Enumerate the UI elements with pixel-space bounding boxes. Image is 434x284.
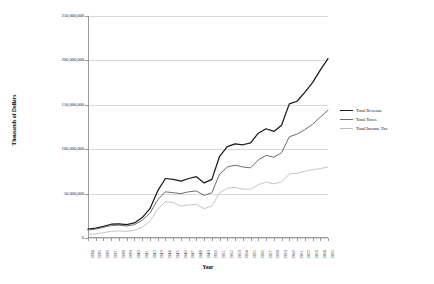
x-axis-tick-mark [196, 238, 197, 241]
x-axis-tick-label: 1939 [128, 250, 133, 259]
x-axis-tick-label: 1942 [152, 250, 157, 259]
x-axis-tick-label: 1950 [213, 250, 218, 259]
x-axis-tick-label: 1948 [198, 250, 203, 259]
x-axis-tick-mark [111, 238, 112, 241]
legend-item: Total Income Tax [340, 124, 432, 133]
gridline [88, 238, 328, 239]
x-axis-tick-mark [142, 238, 143, 241]
x-axis-tick-mark [320, 238, 321, 241]
x-axis-tick-mark [266, 238, 267, 241]
legend-swatch [340, 119, 353, 120]
x-axis-tick-mark [165, 238, 166, 241]
x-axis-tick-mark [134, 238, 135, 241]
x-axis-tick-label: 1952 [229, 250, 234, 259]
x-axis-tick-label: 1937 [113, 250, 118, 259]
x-axis-tick-mark [204, 238, 205, 241]
x-axis-tick-mark [181, 238, 182, 241]
x-axis-tick-label: 1963 [314, 250, 319, 259]
x-axis-tick-mark [258, 238, 259, 241]
x-axis-tick-label: 1955 [252, 250, 257, 259]
x-axis-tick-mark [251, 238, 252, 241]
x-axis-tick-label: 1946 [183, 250, 188, 259]
chart-figure: Thousands of Dollars 050,000,000100,000,… [0, 0, 434, 284]
x-axis-tick-label: 1954 [244, 250, 249, 259]
chart-legend: Total RevenueTotal TaxesTotal Income Tax [340, 106, 432, 133]
y-axis-tick-label: 50,000,000 [26, 191, 84, 196]
x-axis-tick-label: 1956 [260, 250, 265, 259]
y-axis-tick-mark [85, 60, 88, 61]
y-axis-tick-label: 250,000,000 [26, 13, 84, 18]
legend-label: Total Revenue [356, 108, 382, 113]
y-axis-tick-mark [85, 149, 88, 150]
x-axis-tick-mark [328, 238, 329, 241]
x-axis-tick-mark [173, 238, 174, 241]
x-axis-tick-label: 1962 [306, 250, 311, 259]
x-axis-tick-mark [127, 238, 128, 241]
y-axis-tick-mark [85, 194, 88, 195]
x-axis-tick-label: 1957 [268, 250, 273, 259]
x-axis-tick-mark [227, 238, 228, 241]
x-axis-tick-label: 1945 [175, 250, 180, 259]
x-axis-tick-mark [235, 238, 236, 241]
x-axis-tick-label: 1951 [221, 250, 226, 259]
series-lines [88, 16, 328, 238]
series-line [88, 110, 328, 230]
x-axis-tick-label: 1944 [167, 250, 172, 259]
x-axis-tick-mark [88, 238, 89, 241]
legend-swatch [340, 110, 353, 111]
x-axis-tick-label: 1941 [144, 250, 149, 259]
x-axis-tick-label: 1947 [190, 250, 195, 259]
x-axis-tick-mark [305, 238, 306, 241]
x-axis-tick-label: 1935 [97, 250, 102, 259]
x-axis-tick-mark [274, 238, 275, 241]
legend-label: Total Income Tax [356, 126, 387, 131]
x-axis-tick-label: 1936 [105, 250, 110, 259]
x-axis-tick-mark [220, 238, 221, 241]
y-axis-tick-mark [85, 105, 88, 106]
x-axis-tick-mark [282, 238, 283, 241]
x-axis-tick-mark [96, 238, 97, 241]
x-axis-tick-label: 1949 [206, 250, 211, 259]
x-axis-tick-label: 1958 [275, 250, 280, 259]
y-axis-tick-label: 100,000,000 [26, 146, 84, 151]
x-axis-tick-label: 1960 [291, 250, 296, 259]
x-axis-tick-mark [119, 238, 120, 241]
legend-item: Total Taxes [340, 115, 432, 124]
x-axis-tick-mark [212, 238, 213, 241]
x-axis-tick-mark [158, 238, 159, 241]
x-axis-tick-label: 1953 [237, 250, 242, 259]
x-axis-tick-label: 1964 [322, 250, 327, 259]
x-axis-tick-mark [243, 238, 244, 241]
x-axis-tick-label: 1940 [136, 250, 141, 259]
y-axis-title: Thousands of Dollars [4, 0, 24, 240]
x-axis-tick-mark [150, 238, 151, 241]
x-axis-tick-mark [313, 238, 314, 241]
legend-swatch [340, 128, 353, 129]
y-axis-tick-label: 150,000,000 [26, 102, 84, 107]
y-axis-tick-label: 0 [26, 235, 84, 240]
x-axis-tick-mark [297, 238, 298, 241]
y-axis-tick-mark [85, 16, 88, 17]
x-axis-tick-mark [289, 238, 290, 241]
x-axis-tick-label: 1938 [121, 250, 126, 259]
x-axis-tick-label: 1934 [90, 250, 95, 259]
y-axis-tick-label: 200,000,000 [26, 57, 84, 62]
plot-area [88, 16, 328, 238]
legend-item: Total Revenue [340, 106, 432, 115]
legend-label: Total Taxes [356, 117, 377, 122]
series-line [88, 59, 328, 230]
x-axis-tick-label: 1959 [283, 250, 288, 259]
y-axis-title-text: Thousands of Dollars [11, 94, 17, 145]
x-axis-tick-mark [103, 238, 104, 241]
x-axis-tick-label: 1965 [330, 250, 335, 259]
x-axis-tick-label: 1943 [159, 250, 164, 259]
x-axis-tick-label: 1961 [299, 250, 304, 259]
x-axis-tick-mark [189, 238, 190, 241]
x-axis-title: Year [88, 264, 328, 270]
